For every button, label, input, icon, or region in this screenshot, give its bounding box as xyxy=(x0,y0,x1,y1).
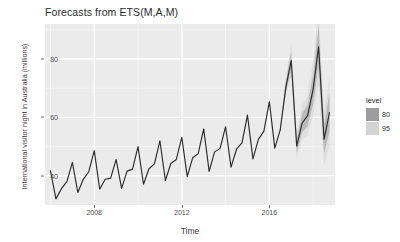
x-tick-mark xyxy=(94,205,95,208)
legend-label: 80 xyxy=(382,111,390,118)
legend-label: 95 xyxy=(382,125,390,132)
series-observed xyxy=(50,102,280,199)
legend-title: level xyxy=(366,96,390,105)
legend-swatch-icon xyxy=(366,108,379,121)
y-tick-label: 80 xyxy=(50,56,58,63)
x-tick-mark xyxy=(269,205,270,208)
y-tick-mark xyxy=(41,117,44,118)
legend-swatch-icon xyxy=(366,122,379,135)
legend-item-95[interactable]: 95 xyxy=(366,122,390,135)
x-tick-label: 2012 xyxy=(174,209,190,216)
y-tick-mark xyxy=(41,175,44,176)
legend: level 8095 xyxy=(366,96,390,136)
y-tick-label: 40 xyxy=(50,172,58,179)
forecast-chart: Forecasts from ETS(M,A,M) International … xyxy=(0,0,400,242)
y-tick-label: 60 xyxy=(50,114,58,121)
x-tick-label: 2008 xyxy=(86,209,102,216)
plot-area xyxy=(45,24,335,205)
legend-items: 8095 xyxy=(366,108,390,135)
y-tick-mark xyxy=(41,59,44,60)
y-axis-title: International visitor night in Australia… xyxy=(20,27,29,207)
x-tick-label: 2016 xyxy=(262,209,278,216)
x-tick-mark xyxy=(182,205,183,208)
x-axis-title: Time xyxy=(45,226,335,236)
page-title: Forecasts from ETS(M,A,M) xyxy=(45,6,178,18)
plot-panel xyxy=(45,24,335,205)
legend-item-80[interactable]: 80 xyxy=(366,108,390,121)
